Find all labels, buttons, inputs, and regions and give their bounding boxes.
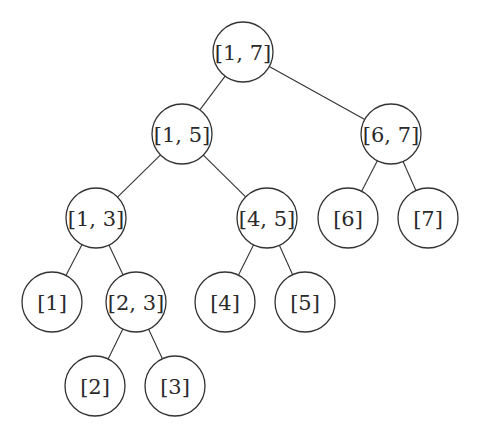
node-label: [6, 7]	[363, 123, 419, 147]
edge-n67-n7	[403, 161, 416, 190]
tree-node: [1, 5]	[152, 104, 212, 164]
node-label: [2, 3]	[108, 291, 164, 315]
edge-n15-n13	[117, 155, 160, 197]
node-label: [1, 3]	[68, 207, 124, 231]
node-label: [1, 5]	[154, 123, 210, 147]
edge-n15-n45	[203, 155, 245, 197]
node-label: [4, 5]	[239, 207, 295, 231]
edge-n17-n15	[200, 76, 225, 110]
node-label: [3]	[160, 375, 190, 399]
tree-node: [7]	[398, 188, 458, 248]
edge-n23-n2	[108, 329, 123, 359]
edge-n45-n4	[238, 245, 253, 275]
edge-n13-n23	[109, 245, 123, 275]
edge-n13-n1	[66, 245, 82, 276]
segment-tree-diagram: [1, 7][1, 5][6, 7][1, 3][4, 5][6][7][1][…	[0, 0, 480, 441]
tree-node: [1]	[22, 272, 82, 332]
tree-node: [6]	[318, 188, 378, 248]
tree-node: [5]	[275, 272, 335, 332]
tree-node: [3]	[145, 356, 205, 416]
edge-n23-n3	[149, 329, 163, 359]
tree-node: [2, 3]	[106, 272, 166, 332]
edge-n45-n5	[279, 245, 292, 274]
tree-node: [1, 3]	[66, 188, 126, 248]
edge-n67-n6	[362, 161, 378, 192]
tree-nodes: [1, 7][1, 5][6, 7][1, 3][4, 5][6][7][1][…	[22, 22, 458, 416]
node-label: [5]	[290, 291, 320, 315]
node-label: [1, 7]	[215, 41, 271, 65]
node-label: [7]	[413, 207, 443, 231]
tree-node: [2]	[65, 356, 125, 416]
tree-node: [4, 5]	[237, 188, 297, 248]
tree-node: [1, 7]	[213, 22, 273, 82]
node-label: [1]	[37, 291, 67, 315]
node-label: [4]	[210, 291, 240, 315]
tree-node: [4]	[195, 272, 255, 332]
tree-node: [6, 7]	[361, 104, 421, 164]
node-label: [2]	[80, 375, 110, 399]
edge-n17-n67	[269, 67, 365, 120]
node-label: [6]	[333, 207, 363, 231]
